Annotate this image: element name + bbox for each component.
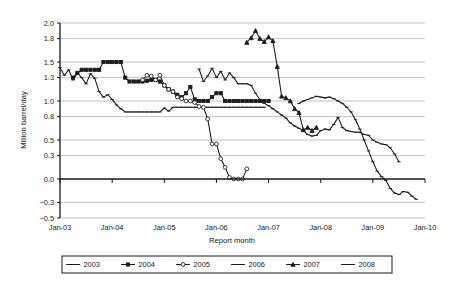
- data-point-marker: [197, 105, 201, 109]
- data-point-marker: [219, 92, 222, 95]
- x-tick-label: Jan-07: [257, 223, 280, 232]
- data-point-marker: [158, 80, 161, 83]
- data-point-marker: [71, 76, 74, 79]
- data-point-marker: [189, 85, 192, 88]
- data-point-marker: [211, 96, 214, 99]
- x-tick-label: Jan-04: [101, 223, 124, 232]
- y-tick-label: 1.0: [44, 97, 54, 106]
- x-tick-label: Jan-03: [49, 223, 72, 232]
- legend-label: 2007: [304, 260, 320, 269]
- data-point-marker: [126, 263, 129, 266]
- data-point-marker: [184, 92, 187, 95]
- legend-label: 2003: [84, 260, 100, 269]
- data-point-marker: [84, 68, 87, 71]
- data-point-marker: [228, 99, 231, 102]
- data-point-marker: [137, 80, 140, 83]
- y-tick-label: −0.5: [39, 214, 54, 223]
- data-point-marker: [180, 97, 184, 101]
- data-point-marker: [175, 95, 179, 99]
- y-tick-label: 1.3: [44, 73, 54, 82]
- data-point-marker: [158, 73, 162, 77]
- y-tick-label: 0.5: [44, 136, 54, 145]
- data-point-marker: [250, 99, 253, 102]
- y-axis-title: Million barrel/day: [19, 91, 28, 149]
- data-point-marker: [254, 99, 257, 102]
- data-point-marker: [162, 84, 166, 88]
- data-point-marker: [93, 68, 96, 71]
- data-point-marker: [141, 78, 145, 82]
- data-point-marker: [232, 99, 235, 102]
- y-tick-label: −0.3: [39, 198, 54, 207]
- x-tick-label: Jan-05: [153, 223, 176, 232]
- legend-label: 2005: [194, 260, 210, 269]
- y-tick-label: 1.5: [44, 58, 54, 67]
- data-point-marker: [241, 99, 244, 102]
- data-point-marker: [76, 71, 79, 74]
- data-point-marker: [128, 80, 131, 83]
- x-tick-label: Jan-08: [309, 223, 332, 232]
- data-point-marker: [206, 99, 209, 102]
- data-point-marker: [202, 99, 205, 102]
- data-point-marker: [223, 165, 227, 169]
- y-tick-label: 0.8: [44, 112, 54, 121]
- legend-label: 2004: [139, 260, 155, 269]
- data-point-marker: [201, 105, 205, 109]
- line-chart: 2.01.81.51.31.00.80.50.30.0−0.3−0.5 Jan-…: [0, 0, 455, 292]
- data-point-marker: [154, 78, 158, 82]
- data-point-marker: [124, 76, 127, 79]
- x-tick-label: Jan-06: [205, 223, 228, 232]
- data-point-marker: [80, 68, 83, 71]
- x-tick-label: Jan-10: [414, 223, 437, 232]
- data-point-marker: [115, 60, 118, 63]
- data-point-marker: [184, 99, 188, 103]
- data-point-marker: [197, 99, 200, 102]
- data-point-marker: [119, 60, 122, 63]
- data-point-marker: [224, 99, 227, 102]
- data-point-marker: [245, 167, 249, 171]
- y-tick-label: 0.0: [44, 175, 54, 184]
- data-point-marker: [219, 157, 223, 161]
- data-point-marker: [149, 74, 153, 78]
- data-point-marker: [102, 60, 105, 63]
- y-tick-label: 0.3: [44, 151, 54, 160]
- x-axis-title: Report month: [209, 236, 255, 245]
- data-point-marker: [89, 68, 92, 71]
- data-point-marker: [111, 60, 114, 63]
- data-point-marker: [237, 99, 240, 102]
- x-tick-label: Jan-09: [362, 223, 385, 232]
- y-tick-label: 1.8: [44, 34, 54, 43]
- data-point-marker: [181, 263, 185, 267]
- data-point-marker: [267, 99, 270, 102]
- data-point-marker: [150, 78, 153, 81]
- y-tick-label: 2.0: [44, 19, 54, 28]
- data-point-marker: [98, 68, 101, 71]
- data-point-marker: [171, 90, 175, 94]
- data-point-marker: [106, 60, 109, 63]
- chart-container: 2.01.81.51.31.00.80.50.30.0−0.3−0.5 Jan-…: [0, 0, 455, 292]
- data-point-marker: [188, 99, 192, 103]
- legend-label: 2006: [249, 260, 265, 269]
- data-point-marker: [215, 92, 218, 95]
- data-point-marker: [245, 99, 248, 102]
- data-point-marker: [167, 87, 171, 91]
- data-point-marker: [145, 79, 148, 82]
- data-point-marker: [206, 117, 210, 121]
- data-point-marker: [210, 142, 214, 146]
- data-point-marker: [132, 80, 135, 83]
- chart-background: [0, 0, 455, 292]
- data-point-marker: [145, 73, 149, 77]
- legend-label: 2008: [359, 260, 375, 269]
- data-point-marker: [193, 101, 197, 105]
- data-point-marker: [215, 142, 219, 146]
